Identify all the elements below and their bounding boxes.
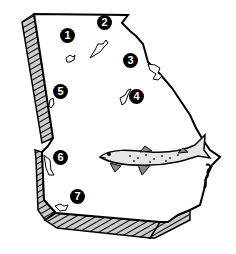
state-land bbox=[34, 14, 220, 222]
georgia-map: 1 2 3 4 5 6 7 bbox=[0, 0, 236, 254]
lake-marker-7: 7 bbox=[70, 189, 85, 204]
lake-marker-6: 6 bbox=[53, 150, 68, 165]
state-outline-icon bbox=[0, 0, 236, 254]
lake-marker-5: 5 bbox=[53, 84, 68, 99]
lake-marker-2: 2 bbox=[97, 15, 112, 30]
lake-marker-3: 3 bbox=[123, 53, 138, 68]
lake-marker-1: 1 bbox=[60, 28, 75, 43]
lake-marker-4: 4 bbox=[129, 89, 144, 104]
